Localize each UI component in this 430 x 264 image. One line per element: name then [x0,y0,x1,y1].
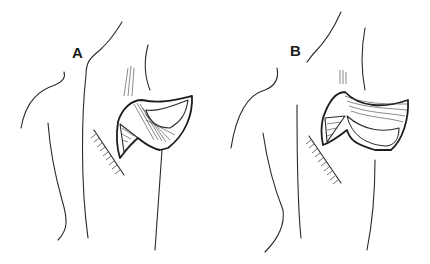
panel-b: B [215,0,430,264]
back-flap-illustration-a [0,0,215,264]
panel-a: A [0,0,215,264]
back-flap-illustration-b [215,0,430,264]
